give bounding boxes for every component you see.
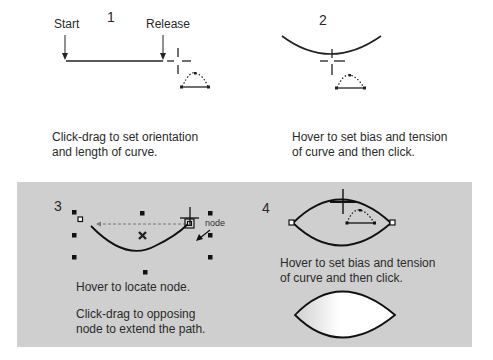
end-node [390,220,395,225]
step-4-diagram [0,0,493,360]
filled-lens-shape [295,292,395,338]
curve-tool-icon [346,209,377,225]
step-4-caption-line1: Hover to set bias and tension [280,256,435,271]
step-4-caption-line2: of curve and then click. [280,271,435,286]
step-4-caption: Hover to set bias and tension of curve a… [280,256,435,286]
crosshair-cursor-icon [330,189,356,214]
end-node [289,220,294,225]
